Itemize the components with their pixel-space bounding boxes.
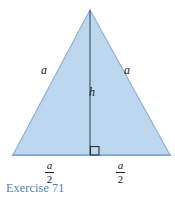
triangle-shape [13, 10, 170, 155]
base-left-numerator: a [46, 160, 54, 172]
base-right-denominator: 2 [117, 174, 125, 186]
figure-container: a a h a 2 a 2 Exercise 71 [0, 0, 175, 204]
triangle-diagram [0, 0, 175, 204]
label-side-right: a [124, 64, 130, 76]
figure-caption: Exercise 71 [6, 181, 65, 196]
label-side-left: a [41, 64, 47, 76]
label-base-right-fraction: a 2 [116, 160, 125, 185]
base-right-numerator: a [117, 160, 125, 172]
label-height: h [89, 86, 95, 98]
